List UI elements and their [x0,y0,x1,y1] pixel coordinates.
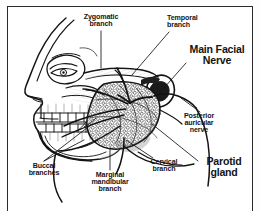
upper-teeth-roots [40,104,96,113]
facial-nerve-figure: Zygomatic branch Temporal branch Main Fa… [0,0,260,211]
pupil [62,71,64,73]
eye-orbit-outline [47,55,85,84]
label-cervical-branch: Cervical branch [140,159,188,173]
temple-shading [80,48,97,56]
label-temporal-branch: Temporal branch [167,15,227,29]
mouth-line [40,118,58,119]
label-main-facial-nerve: Main Facial Nerve [180,44,254,66]
label-zygomatic-branch: Zygomatic branch [66,14,136,28]
label-marginal-mandibular-branch: Marginal mandibular branch [82,172,138,194]
label-parotid-gland: Parotid gland [196,156,252,178]
label-posterior-auricular-nerve: Posterior auricular nerve [171,113,227,135]
label-buccal-branches: Buccal branches [14,163,74,177]
leader-temporal [132,32,169,75]
leader-posterior-auricular [181,98,200,112]
leader-main-facial [156,63,186,97]
